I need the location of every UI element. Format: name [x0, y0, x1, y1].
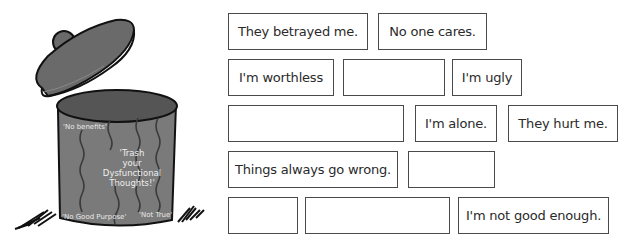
label-line-3: Dysfunctional — [92, 168, 172, 178]
thought-box[interactable]: No one cares. — [378, 13, 487, 50]
trash-can-illustration: 'No benefits' 'Trash your Dysfunctional … — [0, 0, 215, 247]
label-line-1: 'Trash — [92, 148, 172, 158]
label-no-good-purpose: 'No Good Purpose' — [62, 213, 126, 221]
thought-box[interactable]: I'm ugly — [452, 59, 522, 96]
label-no-benefits: 'No benefits' — [63, 123, 107, 131]
thought-box[interactable]: They hurt me. — [508, 105, 618, 142]
thought-box-empty[interactable] — [408, 151, 495, 188]
trash-can-icon — [0, 0, 215, 247]
thought-box[interactable]: I'm alone. — [415, 105, 497, 142]
thought-box[interactable]: Things always go wrong. — [228, 151, 398, 188]
label-line-4: Thoughts!' — [92, 178, 172, 188]
thought-box-empty[interactable] — [228, 197, 298, 234]
lid — [36, 20, 134, 97]
thought-box[interactable]: I'm worthless — [228, 59, 334, 96]
label-not-true: 'Not True' — [139, 211, 172, 219]
thought-box[interactable]: I'm not good enough. — [458, 197, 609, 234]
grass-right — [178, 206, 204, 222]
label-line-2: your — [92, 158, 172, 168]
thought-box[interactable]: They betrayed me. — [228, 13, 368, 50]
label-trash-thoughts: 'Trash your Dysfunctional Thoughts!' — [92, 148, 172, 188]
thought-box-empty[interactable] — [343, 59, 445, 96]
thought-box-empty[interactable] — [228, 105, 404, 142]
thought-box-empty[interactable] — [305, 197, 450, 234]
grass-left — [15, 210, 56, 229]
can-opening — [57, 90, 177, 122]
